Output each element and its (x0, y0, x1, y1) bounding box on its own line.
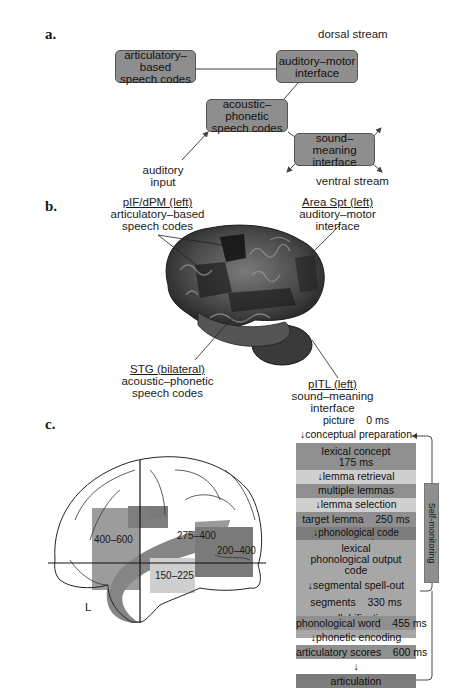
flow-lexical-concept: lexical concept 175 ms (296, 443, 416, 470)
flow-line: 175 ms (296, 457, 416, 468)
flow-segmental-spell-out: ↓segmental spell-out (296, 580, 416, 591)
flow-segments: segments 330 ms (296, 597, 416, 608)
region-400-600: 400–600 (94, 534, 133, 546)
flow-multiple-lemmas: multiple lemmas (296, 484, 416, 498)
region-275-400: 275–400 (177, 530, 216, 542)
hemisphere-label: L (85, 601, 91, 613)
flow-articulation: articulation (296, 674, 416, 688)
flow-target-lemma: target lemma 250 ms (296, 512, 416, 527)
flow-phonetic-encoding: ↓phonetic encoding (296, 632, 416, 643)
flow-arrow: ↓ (296, 661, 416, 672)
self-monitoring-label: Self-monitoring (427, 503, 437, 564)
flow-lemma-retrieval: ↓lemma retrieval (296, 470, 416, 484)
flow-articulatory-scores: articulatory scores 600 ms (296, 645, 416, 659)
flow-line: code (296, 565, 416, 576)
region-200-400: 200–400 (217, 545, 256, 557)
flow-lemma-selection: ↓lemma selection (296, 498, 416, 512)
flow-phonological-code-retrieval: ↓phonological code retrieval (296, 527, 416, 540)
self-monitoring-bar: Self-monitoring (424, 483, 439, 583)
flow-phonological-word: phonological word 455 ms (296, 616, 416, 630)
region-150-225: 150–225 (155, 570, 194, 582)
flow-conceptual-preparation: ↓conceptual preparation (296, 429, 416, 440)
flow-picture: picture 0 ms (296, 415, 416, 426)
